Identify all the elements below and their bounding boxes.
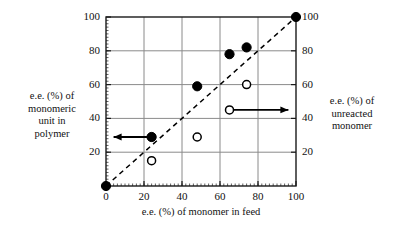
left-axis-arrow-marker bbox=[147, 132, 156, 141]
plot-area bbox=[0, 0, 400, 232]
left-axis-arrow-head bbox=[114, 134, 122, 141]
chart-figure: e.e. (%) of monomeric unit in polymer e.… bbox=[0, 0, 400, 232]
data-point-filled bbox=[225, 50, 234, 59]
data-point-open bbox=[148, 157, 156, 165]
data-point-open bbox=[193, 133, 201, 141]
data-point-filled bbox=[242, 43, 251, 52]
data-point-open bbox=[243, 81, 251, 89]
right-axis-arrow-head bbox=[280, 107, 288, 114]
diagonal-parity-line bbox=[106, 17, 296, 186]
data-point-filled bbox=[193, 82, 202, 91]
data-point-filled bbox=[101, 181, 110, 190]
data-point-filled bbox=[291, 12, 300, 21]
right-axis-arrow-marker bbox=[226, 106, 234, 114]
